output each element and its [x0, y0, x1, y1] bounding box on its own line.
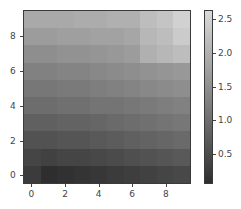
heatmap-cell: [173, 97, 190, 114]
heatmap-cell: [74, 28, 91, 45]
heatmap-cell: [90, 11, 107, 28]
x-tick-mark: [132, 184, 133, 187]
heatmap-cell: [173, 28, 190, 45]
heatmap-cell: [90, 28, 107, 45]
heatmap-cell: [107, 166, 124, 183]
x-tick-mark: [166, 184, 167, 187]
colorbar-tick-label: 2.0: [218, 48, 232, 57]
x-tick-mark: [65, 184, 66, 187]
heatmap-cell: [24, 97, 41, 114]
y-tick-label: 0: [10, 171, 16, 180]
heatmap-cell: [124, 97, 141, 114]
heatmap-cell: [140, 131, 157, 148]
heatmap-cell: [57, 131, 74, 148]
colorbar: [204, 10, 213, 184]
x-tick-label: 2: [62, 190, 68, 199]
heatmap-cell: [41, 28, 58, 45]
x-tick-label: 4: [96, 190, 102, 199]
colorbar-tick-label: 1.5: [218, 82, 232, 91]
heatmap-cell: [57, 114, 74, 131]
heatmap-cell: [107, 11, 124, 28]
y-tick-mark: [20, 71, 23, 72]
heatmap-cell: [173, 114, 190, 131]
heatmap-cell: [24, 63, 41, 80]
heatmap-cell: [107, 97, 124, 114]
heatmap-cell: [140, 45, 157, 62]
heatmap-cell: [74, 80, 91, 97]
heatmap-cell: [173, 11, 190, 28]
heatmap-cell: [90, 131, 107, 148]
colorbar-tick-mark: [213, 53, 216, 54]
heatmap-cell: [157, 45, 174, 62]
heatmap-cell: [124, 63, 141, 80]
heatmap-cell: [74, 149, 91, 166]
heatmap-cell: [124, 114, 141, 131]
y-tick-label: 8: [10, 32, 16, 41]
heatmap-cell: [74, 63, 91, 80]
heatmap-cell: [140, 166, 157, 183]
heatmap-cell: [74, 166, 91, 183]
heatmap-cell: [157, 114, 174, 131]
heatmap-cell: [157, 166, 174, 183]
heatmap-cell: [124, 166, 141, 183]
heatmap-cell: [57, 149, 74, 166]
heatmap-cell: [24, 11, 41, 28]
heatmap-cell: [74, 11, 91, 28]
x-tick-mark: [31, 184, 32, 187]
heatmap-cell: [140, 149, 157, 166]
heatmap-cell: [74, 97, 91, 114]
heatmap-cell: [57, 63, 74, 80]
heatmap-cell: [74, 131, 91, 148]
heatmap-cell: [157, 11, 174, 28]
x-tick-label: 8: [163, 190, 169, 199]
heatmap-cell: [90, 63, 107, 80]
x-tick-label: 6: [129, 190, 135, 199]
heatmap-cell: [41, 80, 58, 97]
heatmap-cell: [57, 80, 74, 97]
heatmap-cell: [107, 80, 124, 97]
colorbar-tick-mark: [213, 154, 216, 155]
heatmap-cell: [90, 45, 107, 62]
heatmap-cell: [24, 166, 41, 183]
heatmap-cell: [24, 114, 41, 131]
heatmap-cell: [107, 45, 124, 62]
heatmap-cell: [140, 28, 157, 45]
heatmap-cell: [74, 45, 91, 62]
colorbar-tick-mark: [213, 19, 216, 20]
heatmap-cell: [173, 149, 190, 166]
heatmap-cell: [41, 11, 58, 28]
heatmap-cell: [107, 149, 124, 166]
heatmap-cell: [57, 45, 74, 62]
colorbar-tick-mark: [213, 87, 216, 88]
x-tick-label: 0: [29, 190, 35, 199]
heatmap-cell: [107, 114, 124, 131]
heatmap-cell: [173, 131, 190, 148]
heatmap-cell: [41, 131, 58, 148]
heatmap-cell: [157, 131, 174, 148]
heatmap-cell: [157, 97, 174, 114]
y-tick-mark: [20, 175, 23, 176]
heatmap-cell: [124, 131, 141, 148]
heatmap-cell: [173, 80, 190, 97]
y-tick-mark: [20, 36, 23, 37]
heatmap-cell: [157, 80, 174, 97]
heatmap-cell: [41, 97, 58, 114]
heatmap-cell: [41, 149, 58, 166]
y-tick-label: 2: [10, 136, 16, 145]
heatmap-cell: [74, 114, 91, 131]
heatmap-cell: [124, 149, 141, 166]
heatmap-cell: [90, 80, 107, 97]
y-tick-mark: [20, 141, 23, 142]
heatmap-cell: [124, 45, 141, 62]
heatmap-cell: [173, 63, 190, 80]
heatmap-cell: [140, 63, 157, 80]
heatmap-cell: [24, 149, 41, 166]
heatmap-cell: [90, 114, 107, 131]
heatmap-cell: [90, 97, 107, 114]
heatmap-cell: [140, 114, 157, 131]
heatmap-cell: [24, 80, 41, 97]
colorbar-tick-mark: [213, 120, 216, 121]
heatmap-cell: [173, 45, 190, 62]
heatmap-plot-area: [23, 10, 191, 184]
y-tick-label: 4: [10, 101, 16, 110]
